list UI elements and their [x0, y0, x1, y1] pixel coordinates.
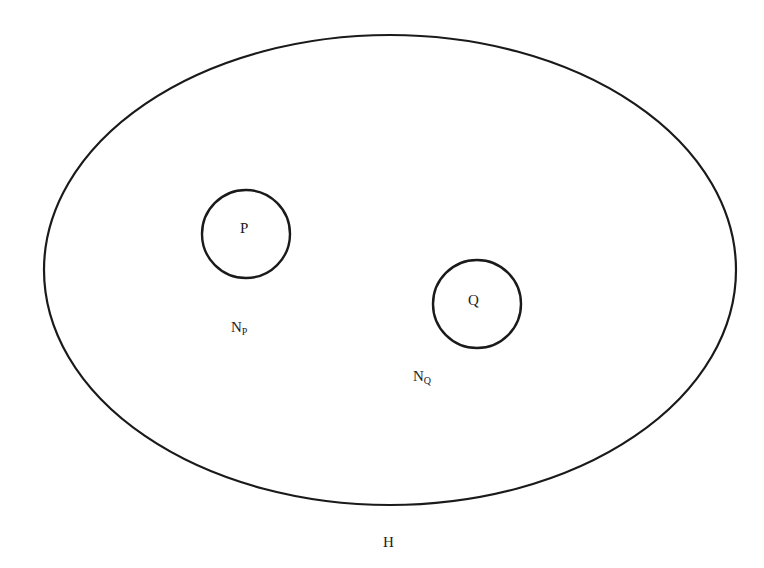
outer-set-h-ellipse [44, 35, 736, 505]
neighborhood-q-base: N [413, 368, 424, 384]
set-p-label: P [240, 220, 248, 236]
neighborhood-p-base: N [231, 319, 242, 335]
neighborhood-p-subscript: P [242, 326, 248, 337]
set-q-label: Q [468, 292, 479, 308]
set-diagram: P Q NP NQ H [0, 0, 764, 568]
outer-set-h-label: H [383, 534, 394, 550]
neighborhood-q-subscript: Q [424, 375, 432, 386]
neighborhood-q-label: NQ [413, 368, 432, 386]
neighborhood-p-label: NP [231, 319, 248, 337]
